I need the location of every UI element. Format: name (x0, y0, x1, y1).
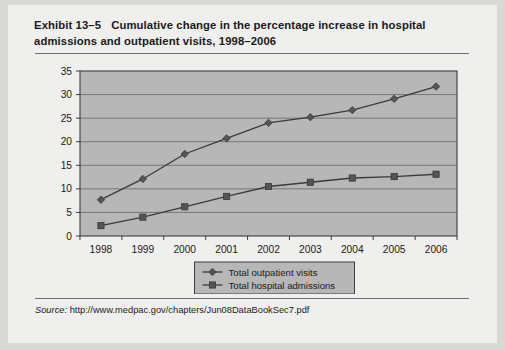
y-tick-label: 35 (61, 66, 73, 77)
x-tick-label: 2001 (215, 244, 238, 255)
exhibit-title: Exhibit 13–5Cumulative change in the per… (34, 17, 474, 49)
data-point-square (98, 223, 104, 229)
x-tick-label: 2006 (425, 244, 448, 255)
x-tick-label: 1998 (90, 244, 113, 255)
data-point-square (140, 214, 146, 220)
legend-label: Total hospital admissions (229, 280, 336, 291)
y-tick-label: 10 (61, 183, 73, 194)
y-tick-label: 20 (61, 136, 73, 147)
divider-top (35, 53, 469, 54)
data-point-square (349, 175, 355, 181)
x-tick-label: 1999 (131, 244, 154, 255)
x-tick-label: 2002 (257, 244, 280, 255)
y-tick-label: 15 (61, 160, 73, 171)
y-tick-label: 5 (66, 207, 72, 218)
data-point-square (433, 171, 439, 177)
source-note: Source: http://www.medpac.gov/chapters/J… (35, 305, 309, 315)
exhibit-page: Exhibit 13–5Cumulative change in the per… (8, 5, 497, 343)
x-tick-label: 2003 (299, 244, 322, 255)
chart-legend: Total outpatient visitsTotal hospital ad… (195, 262, 355, 294)
line-chart: 0510152025303519981999200020012002200320… (35, 59, 469, 294)
source-url: http://www.medpac.gov/chapters/Jun08Data… (70, 305, 310, 315)
data-point-square (307, 179, 313, 185)
exhibit-number: Exhibit 13–5 (34, 19, 101, 31)
y-tick-label: 25 (61, 113, 73, 124)
data-point-square (224, 193, 230, 199)
source-label: Source: (35, 305, 67, 315)
data-point-square (182, 204, 188, 210)
divider-bottom (35, 298, 469, 299)
plot-area (80, 71, 457, 236)
data-point-square (265, 183, 271, 189)
y-tick-label: 0 (66, 231, 72, 242)
chart-figure: 0510152025303519981999200020012002200320… (35, 59, 469, 294)
legend-label: Total outpatient visits (229, 267, 318, 278)
y-tick-label: 30 (61, 89, 73, 100)
x-tick-label: 2000 (173, 244, 196, 255)
data-point-square (391, 174, 397, 180)
x-tick-label: 2005 (383, 244, 406, 255)
x-tick-label: 2004 (341, 244, 364, 255)
data-point-square (209, 282, 215, 288)
